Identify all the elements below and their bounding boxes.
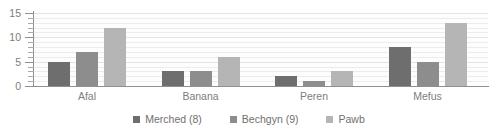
bar[interactable] xyxy=(76,52,98,86)
legend-item[interactable]: Merched (8) xyxy=(133,114,202,125)
y-axis-tick-label: 5 xyxy=(15,56,21,67)
y-axis-tick-label: 10 xyxy=(9,32,21,43)
legend-swatch-icon xyxy=(326,116,333,123)
y-axis-minor-tick xyxy=(28,76,34,77)
y-axis-major-tick xyxy=(25,37,34,38)
x-axis-line xyxy=(33,86,489,87)
y-axis-minor-tick xyxy=(28,57,34,58)
x-axis-tick-label: Peren xyxy=(300,90,328,102)
bar[interactable] xyxy=(48,62,70,86)
legend-label: Pawb xyxy=(338,114,364,125)
y-axis-minor-tick xyxy=(28,81,34,82)
y-axis-minor-tick xyxy=(28,23,34,24)
legend-swatch-icon xyxy=(133,116,140,123)
y-axis-minor-tick xyxy=(28,42,34,43)
bar[interactable] xyxy=(389,47,411,86)
y-axis-minor-tick xyxy=(28,32,34,33)
x-axis-tick-label: Mefus xyxy=(413,90,442,102)
legend-label: Merched (8) xyxy=(145,114,202,125)
y-axis-minor-tick xyxy=(28,28,34,29)
plot-area xyxy=(34,13,488,86)
y-axis-minor-tick xyxy=(28,18,34,19)
y-axis-major-tick xyxy=(25,13,34,14)
y-axis-major-tick xyxy=(25,62,34,63)
bar[interactable] xyxy=(190,71,212,86)
bars-layer xyxy=(34,13,488,86)
bar[interactable] xyxy=(331,71,353,86)
bar[interactable] xyxy=(104,28,126,86)
y-axis-minor-tick xyxy=(28,52,34,53)
y-axis-minor-tick xyxy=(28,67,34,68)
chart-title xyxy=(0,0,498,2)
bar[interactable] xyxy=(275,76,297,86)
legend-item[interactable]: Bechgyn (9) xyxy=(230,114,299,125)
legend-label: Bechgyn (9) xyxy=(242,114,299,125)
bar[interactable] xyxy=(445,23,467,86)
bar-chart: 051015 AfalBananaPerenMefus Merched (8) … xyxy=(0,0,498,137)
bar[interactable] xyxy=(218,57,240,86)
legend-swatch-icon xyxy=(230,116,237,123)
bar[interactable] xyxy=(162,71,184,86)
legend-item[interactable]: Pawb xyxy=(326,114,364,125)
y-axis-major-tick xyxy=(25,86,34,87)
y-axis-tick-label: 0 xyxy=(15,81,21,92)
y-axis-minor-tick xyxy=(28,47,34,48)
x-axis-tick-label: Afal xyxy=(78,90,96,102)
y-axis-minor-tick xyxy=(28,71,34,72)
x-axis-tick-label: Banana xyxy=(182,90,218,102)
chart-legend: Merched (8) Bechgyn (9) Pawb xyxy=(0,114,498,125)
x-axis-category-labels: AfalBananaPerenMefus xyxy=(34,90,488,106)
y-axis-tick-label: 15 xyxy=(9,8,21,19)
bar[interactable] xyxy=(417,62,439,86)
